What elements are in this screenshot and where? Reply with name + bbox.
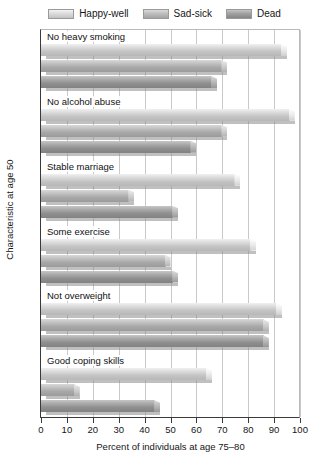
bar-body [41, 255, 166, 267]
bar[interactable] [41, 319, 269, 334]
bar-shadow [46, 267, 171, 270]
bar-slot [41, 141, 299, 156]
bar-shadow [46, 315, 282, 318]
bar-shadow [46, 72, 227, 75]
bar-shadow [46, 396, 80, 399]
bar[interactable] [41, 206, 178, 221]
bar-shadow [46, 218, 178, 221]
bar[interactable] [41, 368, 212, 383]
bar[interactable] [41, 141, 196, 156]
bar-group-bars [41, 368, 299, 416]
bar[interactable] [41, 125, 227, 140]
bar-shadow [46, 380, 212, 383]
bar-body [41, 141, 191, 153]
legend-item-happy-well[interactable]: Happy-well [48, 9, 128, 19]
bar-shadow [46, 283, 178, 286]
bar-slot [41, 206, 299, 221]
bar-slot [41, 368, 299, 383]
bar-body [41, 174, 235, 186]
bar-cap [165, 255, 171, 267]
bar[interactable] [41, 255, 171, 270]
x-axis-tick [93, 418, 94, 423]
bar[interactable] [41, 60, 227, 75]
bar-group-label: Stable marriage [45, 161, 116, 172]
x-axis-tick [67, 418, 68, 423]
bar-cap [221, 125, 227, 137]
bar-shadow [46, 202, 134, 205]
x-axis-tick-labels: 0102030405060708090100 [40, 424, 301, 438]
bar-body [41, 125, 222, 137]
bar-cap [263, 335, 269, 347]
legend-item-sad-sick[interactable]: Sad-sick [143, 9, 212, 19]
bar-body [41, 206, 173, 218]
legend-item-dead[interactable]: Dead [226, 9, 281, 19]
x-axis-tick [222, 418, 223, 423]
bar[interactable] [41, 303, 282, 318]
bar[interactable] [41, 271, 178, 286]
bar-group-label: Not overweight [45, 290, 112, 301]
x-axis-tick-label: 50 [165, 424, 176, 436]
x-axis-tick-label: 30 [113, 424, 124, 436]
bar-shadow [46, 412, 160, 415]
legend-label: Dead [257, 9, 281, 19]
bar[interactable] [41, 400, 160, 415]
bar-cap [211, 76, 217, 88]
bar-group-bars [41, 174, 299, 222]
bar-cap [154, 400, 160, 412]
bar-group-label: No heavy smoking [45, 31, 127, 42]
bar-shadow [46, 331, 269, 334]
bar-body [41, 271, 173, 283]
x-axis-tick [300, 418, 301, 423]
bar-groups: No heavy smokingNo alcohol abuseStable m… [41, 30, 299, 417]
bar[interactable] [41, 335, 269, 350]
bar-slot [41, 255, 299, 270]
bar-body [41, 190, 129, 202]
bar[interactable] [41, 174, 240, 189]
x-axis-tick [119, 418, 120, 423]
bar[interactable] [41, 76, 217, 91]
bar-cap [74, 384, 80, 396]
bar-cap [234, 174, 240, 186]
x-axis-tick-label: 0 [38, 424, 43, 436]
x-axis-tick-label: 90 [269, 424, 280, 436]
bar-cap [206, 368, 212, 380]
bar-body [41, 335, 264, 347]
bar-group: No alcohol abuse [41, 95, 299, 160]
bar[interactable] [41, 44, 287, 59]
x-axis-tick-label: 60 [191, 424, 202, 436]
bar-body [41, 368, 207, 380]
chart-legend: Happy-wellSad-sickDead [0, 0, 311, 28]
bar-group-bars [41, 44, 299, 92]
bar-slot [41, 239, 299, 254]
bar-shadow [46, 153, 196, 156]
bar[interactable] [41, 384, 80, 399]
bar-shadow [46, 347, 269, 350]
bar-shadow [46, 88, 217, 91]
bar-body [41, 303, 277, 315]
bar-cap [250, 239, 256, 251]
y-axis-title-label: Characteristic at age 50 [4, 159, 15, 259]
bar-shadow [46, 186, 240, 189]
bar-slot [41, 44, 299, 59]
bar-shadow [46, 251, 256, 254]
bar-slot [41, 303, 299, 318]
bar-slot [41, 335, 299, 350]
bar-group: Good coping skills [41, 354, 299, 419]
bar-body [41, 109, 290, 121]
bar-body [41, 400, 155, 412]
bar[interactable] [41, 190, 134, 205]
bar-group: No heavy smoking [41, 30, 299, 95]
bar-cap [263, 319, 269, 331]
bar-slot [41, 384, 299, 399]
bar-cap [190, 141, 196, 153]
bar-body [41, 384, 75, 396]
bar[interactable] [41, 109, 295, 124]
bar[interactable] [41, 239, 256, 254]
bar-shadow [46, 56, 287, 59]
x-axis-tick-label: 40 [139, 424, 150, 436]
bar-cap [128, 190, 134, 202]
bar-shadow [46, 121, 295, 124]
bar-shadow [46, 137, 227, 140]
bar-group: Not overweight [41, 289, 299, 354]
bar-slot [41, 319, 299, 334]
